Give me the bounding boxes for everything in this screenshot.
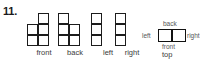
- top-view-cell: [172, 29, 186, 42]
- unit-square: [27, 24, 38, 35]
- unit-square: [91, 35, 102, 46]
- direction-label-left: left: [142, 32, 151, 40]
- elevation-view-grid: [91, 13, 102, 46]
- top-view-caption: top: [162, 51, 172, 59]
- unit-square: [38, 13, 49, 24]
- unit-square: [38, 24, 49, 35]
- elevation-view-label: back: [58, 48, 92, 58]
- unit-square: [27, 35, 38, 46]
- unit-square: [69, 35, 80, 46]
- top-view-cell: [158, 29, 172, 42]
- elevation-view-grid: [58, 13, 80, 46]
- unit-square: [58, 24, 69, 35]
- elevation-view-grid: [115, 13, 126, 46]
- top-view-box: [158, 29, 186, 42]
- top-view-group: back front left right top: [141, 2, 201, 60]
- elevation-view-label: front: [27, 48, 61, 58]
- unit-square: [38, 35, 49, 46]
- elevation-view-back: back: [58, 2, 92, 58]
- elevation-view-grid: [27, 13, 49, 46]
- unit-square: [115, 24, 126, 35]
- unit-square: [91, 13, 102, 24]
- direction-label-right: right: [187, 32, 200, 40]
- unit-square: [115, 35, 126, 46]
- unit-square: [58, 13, 69, 24]
- unit-square: [69, 24, 80, 35]
- unit-square: [115, 13, 126, 24]
- problem-number: 11.: [3, 6, 17, 17]
- unit-square: [91, 24, 102, 35]
- elevation-view-front: front: [27, 2, 61, 58]
- unit-square: [58, 35, 69, 46]
- orthographic-views-figure: 11. frontbackleftright back front left r…: [0, 0, 201, 61]
- direction-label-back: back: [163, 20, 177, 28]
